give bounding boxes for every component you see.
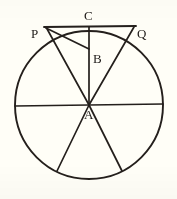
- spoke-a-lower-right: [89, 105, 122, 171]
- point-label-p: P: [31, 27, 38, 40]
- figure-canvas: [0, 0, 177, 199]
- point-label-q: Q: [137, 27, 146, 40]
- point-label-c: C: [84, 9, 93, 22]
- point-label-a: A: [84, 108, 93, 121]
- geometry-figure: C P Q B A: [0, 0, 177, 199]
- tangent-line-pq: [44, 26, 136, 27]
- line-a-to-q: [89, 27, 134, 105]
- point-label-b: B: [93, 52, 102, 65]
